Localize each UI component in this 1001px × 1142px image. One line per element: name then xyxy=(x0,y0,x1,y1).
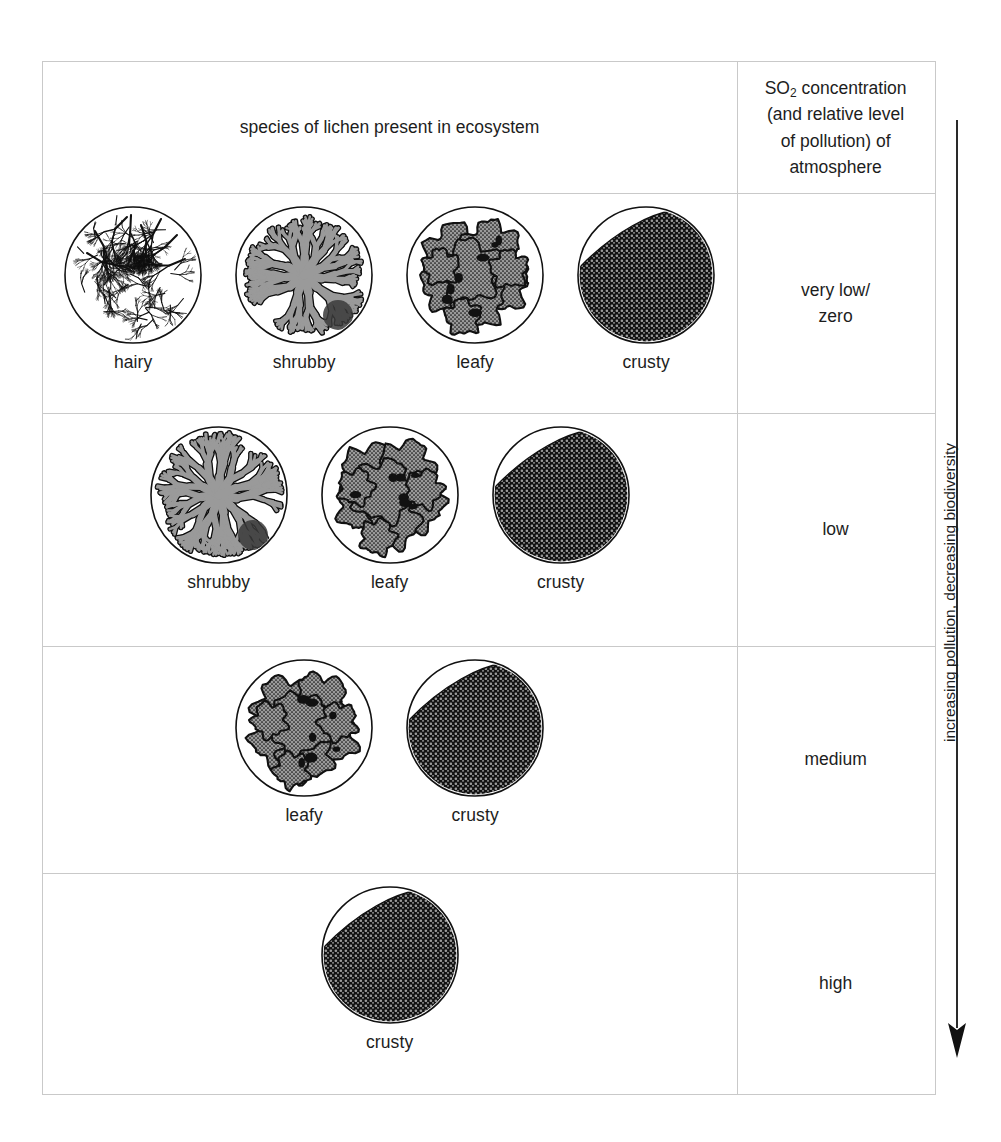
specimen-label: crusty xyxy=(366,1032,413,1053)
header-species-cell: species of lichen present in ecosystem xyxy=(43,62,736,193)
specimen-label: shrubby xyxy=(273,352,336,373)
so2-cell-row3: medium xyxy=(736,647,935,873)
species-cell-row2: shrubbyleafycrusty xyxy=(43,414,736,646)
header-so2-line1-a: SO xyxy=(765,78,790,98)
so2-level-row1-line1: very low/ xyxy=(801,280,870,300)
specimen: hairy xyxy=(48,204,219,373)
table-row: shrubbyleafycrusty low xyxy=(43,414,935,646)
specimen: shrubby xyxy=(133,424,304,593)
so2-level-row1-line2: zero xyxy=(819,306,853,326)
specimen: crusty xyxy=(561,204,732,373)
specimen: leafy xyxy=(219,657,390,826)
leafy-lichen-icon xyxy=(319,424,461,566)
so2-level-row2: low xyxy=(822,517,848,542)
crusty-lichen-icon xyxy=(319,884,461,1026)
specimen-label: hairy xyxy=(114,352,152,373)
table-row: crusty high xyxy=(43,874,935,1094)
header-so2-label: SO2 concentration (and relative level of… xyxy=(765,75,907,180)
table-row: leafycrusty medium xyxy=(43,647,935,873)
header-so2-line1-b: concentration xyxy=(797,78,907,98)
header-so2-subscript: 2 xyxy=(790,86,797,100)
crusty-lichen-icon xyxy=(490,424,632,566)
specimen: shrubby xyxy=(219,204,390,373)
specimen-list-row4: crusty xyxy=(43,874,736,1094)
header-so2-cell: SO2 concentration (and relative level of… xyxy=(736,62,935,193)
so2-level-row1: very low/ zero xyxy=(801,278,870,329)
specimen: crusty xyxy=(475,424,646,593)
specimen: crusty xyxy=(304,884,475,1053)
specimen-list-row1: hairyshrubbyleafycrusty xyxy=(43,194,736,413)
figure-root: species of lichen present in ecosystem S… xyxy=(0,0,1001,1142)
specimen-label: leafy xyxy=(285,805,322,826)
header-so2-line3: of pollution) of xyxy=(781,131,891,151)
header-species-label: species of lichen present in ecosystem xyxy=(240,117,540,138)
crusty-lichen-icon xyxy=(575,204,717,346)
specimen: leafy xyxy=(390,204,561,373)
species-cell-row3: leafycrusty xyxy=(43,647,736,873)
specimen-list-row3: leafycrusty xyxy=(43,647,736,873)
specimen-label: crusty xyxy=(622,352,669,373)
so2-level-row4: high xyxy=(819,971,852,996)
so2-cell-row1: very low/ zero xyxy=(736,194,935,413)
so2-cell-row4: high xyxy=(736,874,935,1094)
arrow-caption: increasing pollution, decreasing biodive… xyxy=(940,120,960,1065)
crusty-lichen-icon xyxy=(404,657,546,799)
specimen-label: shrubby xyxy=(187,572,250,593)
species-cell-row1: hairyshrubbyleafycrusty xyxy=(43,194,736,413)
specimen-list-row2: shrubbyleafycrusty xyxy=(43,414,736,646)
lichen-pollution-table: species of lichen present in ecosystem S… xyxy=(42,61,936,1095)
species-cell-row4: crusty xyxy=(43,874,736,1094)
pollution-gradient-arrow: increasing pollution, decreasing biodive… xyxy=(940,120,1001,1065)
specimen: leafy xyxy=(304,424,475,593)
hairy-lichen-icon xyxy=(62,204,204,346)
specimen-label: crusty xyxy=(537,572,584,593)
shrubby-lichen-icon xyxy=(233,204,375,346)
table-row: hairyshrubbyleafycrusty very low/ zero xyxy=(43,194,935,413)
specimen-label: crusty xyxy=(451,805,498,826)
leafy-lichen-icon xyxy=(233,657,375,799)
leafy-lichen-icon xyxy=(404,204,546,346)
header-so2-line4: atmosphere xyxy=(789,157,881,177)
header-so2-line2: (and relative level xyxy=(767,104,904,124)
specimen-label: leafy xyxy=(371,572,408,593)
so2-cell-row2: low xyxy=(736,414,935,646)
specimen-label: leafy xyxy=(456,352,493,373)
shrubby-lichen-icon xyxy=(148,424,290,566)
table-header-row: species of lichen present in ecosystem S… xyxy=(43,62,935,193)
specimen: crusty xyxy=(390,657,561,826)
so2-level-row3: medium xyxy=(804,747,866,772)
